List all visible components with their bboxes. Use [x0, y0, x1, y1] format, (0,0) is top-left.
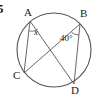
angle-label-40: 40° — [60, 34, 73, 43]
angle-label-x: x — [34, 28, 38, 37]
circle-geometry-figure: 5 A B C D x 40° — [0, 0, 102, 103]
chord-bd — [74, 24, 80, 84]
vertex-label-b: B — [80, 8, 87, 19]
vertex-label-c: C — [13, 70, 20, 81]
vertex-label-d: D — [71, 85, 79, 96]
chord-ac — [24, 21, 30, 73]
vertex-label-a: A — [24, 7, 32, 18]
